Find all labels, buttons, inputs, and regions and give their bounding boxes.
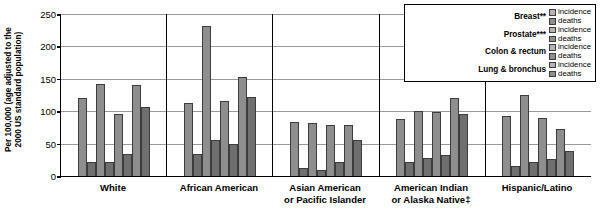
bar-4-4 xyxy=(538,118,547,176)
y-tick-label-250: 250 xyxy=(40,9,56,20)
bar-1-0 xyxy=(184,103,193,176)
x-group-label-line2: or Pacific Islander xyxy=(272,194,378,206)
bar-4-0 xyxy=(502,116,511,176)
bar-2-7 xyxy=(353,140,362,176)
bar-0-3 xyxy=(105,162,114,176)
y-tick-label-0: 0 xyxy=(51,171,56,182)
chart-legend: Breast**incidencedeathsProstate***incide… xyxy=(404,4,596,82)
legend-entry-name: Breast** xyxy=(514,12,546,21)
bar-4-3 xyxy=(529,162,538,176)
bars xyxy=(78,14,150,176)
x-group-label-1: African American xyxy=(166,182,272,211)
bar-4-5 xyxy=(547,159,556,176)
legend-row-0[interactable]: Breast**incidencedeaths xyxy=(409,8,591,26)
bar-0-5 xyxy=(123,154,132,176)
legend-swatch-incidence-icon xyxy=(549,27,556,34)
bar-3-5 xyxy=(441,155,450,176)
bar-1-2 xyxy=(202,26,211,176)
y-tick-label-200: 200 xyxy=(40,41,56,52)
bar-0-7 xyxy=(141,107,150,176)
bar-1-5 xyxy=(229,144,238,176)
legend-key-label: deaths xyxy=(558,70,581,78)
x-group-label-line1: Asian American xyxy=(272,182,378,194)
legend-swatch-deaths-icon xyxy=(549,18,556,25)
x-group-label-3: American Indianor Alaska Native‡ xyxy=(378,182,484,211)
bar-2-4 xyxy=(326,125,335,176)
legend-key-incidence[interactable]: incidence xyxy=(549,8,591,16)
x-group-label-0: White xyxy=(60,182,166,211)
bars xyxy=(290,14,362,176)
y-tick-label-150: 150 xyxy=(40,73,56,84)
legend-entry-name: Colon & rectum xyxy=(485,47,546,56)
bar-2-1 xyxy=(299,168,308,176)
bar-2-5 xyxy=(335,162,344,176)
bar-2-0 xyxy=(290,122,299,176)
bar-3-2 xyxy=(414,111,423,176)
legend-row-2[interactable]: Colon & rectumincidencedeaths xyxy=(409,43,591,61)
bar-1-1 xyxy=(193,154,202,176)
x-group-label-line2: or Alaska Native‡ xyxy=(378,194,484,206)
bar-0-2 xyxy=(96,84,105,176)
legend-keys: incidencedeaths xyxy=(549,61,591,78)
legend-row-1[interactable]: Prostate***incidencedeaths xyxy=(409,26,591,44)
x-group-label-line1: African American xyxy=(166,182,272,194)
bar-group-2 xyxy=(273,14,379,176)
bar-0-4 xyxy=(114,114,123,176)
bar-3-1 xyxy=(405,162,414,176)
legend-entry-name: Prostate*** xyxy=(504,30,546,39)
bar-2-3 xyxy=(317,170,326,176)
y-axis-title-line2: 2000 US standard population) xyxy=(13,32,22,148)
bar-1-6 xyxy=(238,77,247,176)
legend-key-label: incidence xyxy=(558,26,591,34)
bar-0-0 xyxy=(78,98,87,176)
bar-3-4 xyxy=(432,112,441,176)
legend-keys: incidencedeaths xyxy=(549,43,591,60)
cancer-rates-bar-chart: Per 100,000 (age adjusted to the 2000 US… xyxy=(0,0,600,211)
legend-key-incidence[interactable]: incidence xyxy=(549,61,591,69)
bar-4-7 xyxy=(565,151,574,176)
legend-swatch-deaths-icon xyxy=(549,36,556,43)
x-group-label-line1: Hispanic/Latino xyxy=(484,182,590,194)
bar-3-3 xyxy=(423,158,432,176)
bar-3-6 xyxy=(450,98,459,176)
legend-key-label: incidence xyxy=(558,61,591,69)
bar-0-1 xyxy=(87,162,96,176)
bar-1-7 xyxy=(247,97,256,176)
bar-4-2 xyxy=(520,95,529,176)
bar-group-1 xyxy=(167,14,273,176)
legend-swatch-deaths-icon xyxy=(549,53,556,60)
y-axis-tick-labels: 250200150100500 xyxy=(28,14,56,176)
legend-swatch-incidence-icon xyxy=(549,62,556,69)
legend-row-3[interactable]: Lung & bronchusincidencedeaths xyxy=(409,61,591,79)
legend-swatch-deaths-icon xyxy=(549,71,556,78)
bar-2-6 xyxy=(344,125,353,176)
legend-key-incidence[interactable]: incidence xyxy=(549,43,591,51)
x-group-label-4: Hispanic/Latino xyxy=(484,182,590,211)
y-tick-mark-0 xyxy=(57,176,61,178)
y-axis-title: Per 100,000 (age adjusted to the 2000 US… xyxy=(0,0,26,180)
bar-1-4 xyxy=(220,101,229,176)
legend-key-label: incidence xyxy=(558,8,591,16)
x-group-label-2: Asian Americanor Pacific Islander xyxy=(272,182,378,211)
bar-0-6 xyxy=(132,85,141,176)
y-tick-label-50: 50 xyxy=(45,138,56,149)
bar-3-7 xyxy=(459,114,468,176)
legend-keys: incidencedeaths xyxy=(549,8,591,25)
bar-1-3 xyxy=(211,140,220,176)
bars xyxy=(184,14,256,176)
legend-swatch-incidence-icon xyxy=(549,44,556,51)
legend-keys: incidencedeaths xyxy=(549,26,591,43)
legend-key-deaths[interactable]: deaths xyxy=(549,70,591,78)
bar-3-0 xyxy=(396,119,405,176)
x-group-label-line1: White xyxy=(60,182,166,194)
y-axis-title-line1: Per 100,000 (age adjusted to the xyxy=(3,28,12,153)
x-axis-group-labels: WhiteAfrican AmericanAsian Americanor Pa… xyxy=(60,182,590,211)
y-tick-label-100: 100 xyxy=(40,106,56,117)
bar-4-1 xyxy=(511,166,520,176)
bar-2-2 xyxy=(308,123,317,176)
legend-entry-name: Lung & bronchus xyxy=(478,65,546,74)
legend-key-incidence[interactable]: incidence xyxy=(549,26,591,34)
x-group-label-line1: American Indian xyxy=(378,182,484,194)
legend-swatch-incidence-icon xyxy=(549,9,556,16)
bar-4-6 xyxy=(556,129,565,176)
